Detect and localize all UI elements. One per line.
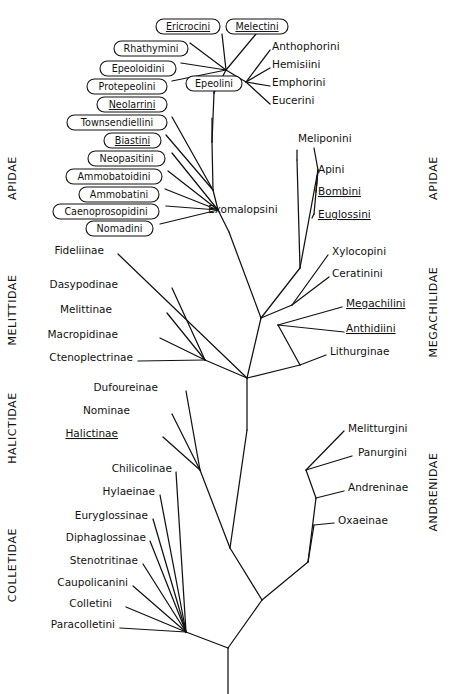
taxon-label-eucerini[interactable]: Eucerini — [272, 94, 314, 106]
taxon-label-melitturgini[interactable]: Melitturgini — [348, 422, 408, 434]
boxed-taxon-rhathymini[interactable]: Rhathymini — [114, 41, 188, 56]
tree-branch — [205, 360, 247, 378]
tree-branch — [200, 470, 230, 548]
family-label-andrenidae: ANDRENIDAE — [427, 452, 440, 531]
taxon-label-megachilini[interactable]: Megachilini — [346, 297, 405, 309]
taxon-label-stenotritinae[interactable]: Stenotritinae — [70, 554, 138, 566]
tree-branch — [300, 355, 326, 365]
family-label-apidae_right: APIDAE — [427, 156, 440, 200]
tree-branch — [172, 288, 205, 360]
tree-branch — [246, 50, 270, 82]
boxed-taxon-neolarrini[interactable]: Neolarrini — [97, 97, 167, 112]
taxon-label: Biastini — [115, 135, 150, 146]
taxon-label: Ammobatini — [90, 189, 148, 200]
taxon-label-apini[interactable]: Apini — [318, 163, 344, 175]
tree-branch — [229, 232, 261, 318]
tree-branch — [166, 135, 213, 190]
tree-branch — [314, 523, 334, 525]
tree-branch — [246, 68, 270, 82]
boxed-taxon-caenoprosopidini[interactable]: Caenoprosopidini — [53, 204, 159, 219]
tree-branch — [212, 142, 213, 190]
taxon-label-anthidiini[interactable]: Anthidiini — [346, 322, 396, 334]
family-label-halictidae: HALICTIDAE — [6, 392, 19, 464]
taxon-label-oxaeinae[interactable]: Oxaeinae — [338, 514, 388, 526]
taxon-label-diphaglossinae[interactable]: Diphaglossinae — [66, 531, 146, 543]
boxed-taxon-neopasitini[interactable]: Neopasitini — [88, 151, 165, 166]
taxon-label: Ammobatoidini — [78, 171, 151, 182]
tree-branch — [186, 391, 200, 470]
tree-branch — [172, 414, 200, 470]
taxon-label-ceratinini[interactable]: Ceratinini — [332, 267, 383, 279]
cladogram-figure: EricrociniMelectiniRhathyminiEpeoloidini… — [0, 0, 456, 694]
tree-branch — [181, 63, 226, 70]
taxon-label-euryglossinae[interactable]: Euryglossinae — [75, 509, 148, 521]
taxon-label-macropidinae[interactable]: Macropidinae — [48, 328, 119, 340]
tree-branch — [292, 255, 328, 305]
boxed-taxon-biastini[interactable]: Biastini — [104, 133, 161, 148]
taxon-label: Ericrocini — [166, 21, 210, 32]
taxon-label-xylocopini[interactable]: Xylocopini — [332, 245, 386, 257]
taxon-label-panurgini[interactable]: Panurgini — [358, 446, 407, 458]
tree-branch — [226, 34, 256, 70]
tree-branch — [138, 360, 205, 361]
taxon-label-paracolletini[interactable]: Paracolletini — [51, 618, 115, 630]
tree-branch — [228, 600, 262, 648]
taxon-label-fideliinae[interactable]: Fideliinae — [54, 244, 104, 256]
taxon-label-emphorini[interactable]: Emphorini — [272, 76, 325, 88]
boxed-taxon-ammobatini[interactable]: Ammobatini — [79, 187, 159, 202]
tree-branch — [278, 325, 300, 365]
taxon-label-nominae[interactable]: Nominae — [83, 404, 130, 416]
taxon-label-meliponini[interactable]: Meliponini — [298, 132, 352, 144]
taxon-label-lithurginae[interactable]: Lithurginae — [330, 345, 389, 357]
tree-branch — [292, 277, 329, 305]
tree-branch — [190, 43, 226, 70]
taxon-label-chilicolinae[interactable]: Chilicolinae — [112, 462, 172, 474]
tree-branch — [186, 632, 228, 648]
tree-branch — [153, 519, 186, 632]
taxon-label-colletini[interactable]: Colletini — [69, 597, 112, 609]
taxon-label: Caenoprosopidini — [64, 206, 147, 217]
taxon-label-exomalopsini[interactable]: Exomalopsini — [208, 203, 278, 215]
boxed-taxon-ericrocini[interactable]: Ericrocini — [156, 19, 220, 34]
tree-branch — [230, 548, 262, 600]
taxon-label: Neopasitini — [100, 153, 154, 164]
taxon-label: Protepeolini — [99, 81, 156, 92]
boxed-taxon-ammobatoidini[interactable]: Ammobatoidini — [66, 169, 162, 184]
family-label-melittidae: MELITTIDAE — [6, 274, 19, 345]
taxon-label: Neolarrini — [109, 99, 156, 110]
taxon-label-hylaeinae[interactable]: Hylaeinae — [103, 485, 155, 497]
tree-branch — [247, 318, 261, 378]
tree-branch — [118, 254, 247, 378]
taxon-label-halictinae[interactable]: Halictinae — [65, 427, 118, 439]
taxon-label-andreninae[interactable]: Andreninae — [348, 481, 408, 493]
taxon-label-anthophorini[interactable]: Anthophorini — [272, 40, 340, 52]
boxed-taxon-melectini[interactable]: Melectini — [226, 19, 288, 34]
taxon-label-caupolicanini[interactable]: Caupolicanini — [57, 576, 128, 588]
taxon-label: Rhathymini — [124, 43, 179, 54]
taxon-label-dufoureinae[interactable]: Dufoureinae — [93, 381, 158, 393]
boxed-taxon-epeolini[interactable]: Epeolini — [186, 76, 242, 91]
tree-branch — [160, 338, 205, 360]
taxon-label-melittinae[interactable]: Melittinae — [60, 303, 112, 315]
taxon-label-bombini[interactable]: Bombini — [318, 185, 361, 197]
tree-branch — [308, 498, 316, 562]
taxon-label: Epeolini — [195, 78, 233, 89]
tree-branch — [278, 307, 342, 325]
boxed-taxon-protepeolini[interactable]: Protepeolini — [87, 79, 167, 94]
taxon-label-ctenoplectrinae[interactable]: Ctenoplectrinae — [49, 351, 133, 363]
taxon-label-euglossini[interactable]: Euglossini — [318, 208, 371, 220]
boxed-taxon-townsendiellini[interactable]: Townsendiellini — [67, 115, 167, 130]
boxed-taxon-epeoloidini[interactable]: Epeoloidini — [100, 61, 176, 76]
tree-branch — [312, 214, 314, 218]
taxon-label-hemisiini[interactable]: Hemisiini — [272, 58, 320, 70]
tree-branch — [297, 160, 300, 268]
taxon-label-dasypodinae[interactable]: Dasypodinae — [50, 278, 118, 290]
taxon-label: Epeoloidini — [112, 63, 165, 74]
tree-branch — [222, 34, 226, 70]
taxon-label: Melectini — [235, 21, 278, 32]
taxon-label: Townsendiellini — [80, 117, 153, 128]
cladogram-svg: EricrociniMelectiniRhathyminiEpeoloidini… — [0, 0, 456, 694]
boxed-taxon-nomadini[interactable]: Nomadini — [86, 221, 153, 236]
taxon-label: Nomadini — [97, 223, 143, 234]
tree-branch — [120, 628, 186, 632]
